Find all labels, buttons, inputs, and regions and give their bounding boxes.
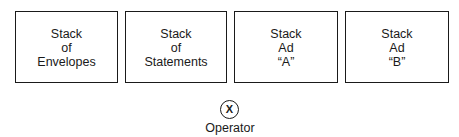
stack-ad-b-box: Stack Ad “B” — [345, 11, 449, 83]
stack-of-envelopes-box: Stack of Envelopes — [15, 11, 118, 83]
box-label-line: Ad — [389, 41, 404, 55]
box-label-line: Stack — [270, 27, 301, 41]
box-label-line: Stack — [160, 27, 191, 41]
operator-symbol: X — [226, 104, 233, 115]
box-label-line: Ad — [278, 41, 293, 55]
box-label-line: Statements — [144, 55, 207, 69]
stack-ad-a-box: Stack Ad “A” — [234, 11, 338, 83]
operator-circle-icon: X — [220, 100, 239, 119]
box-label-line: Envelopes — [37, 55, 95, 69]
box-label-line: of — [61, 41, 71, 55]
operator-label: Operator — [180, 121, 280, 135]
box-label-line: Stack — [51, 27, 82, 41]
stack-of-statements-box: Stack of Statements — [125, 11, 227, 83]
box-label-line: “B” — [389, 55, 406, 69]
box-label-line: “A” — [278, 55, 295, 69]
box-label-line: of — [171, 41, 181, 55]
box-label-line: Stack — [381, 27, 412, 41]
